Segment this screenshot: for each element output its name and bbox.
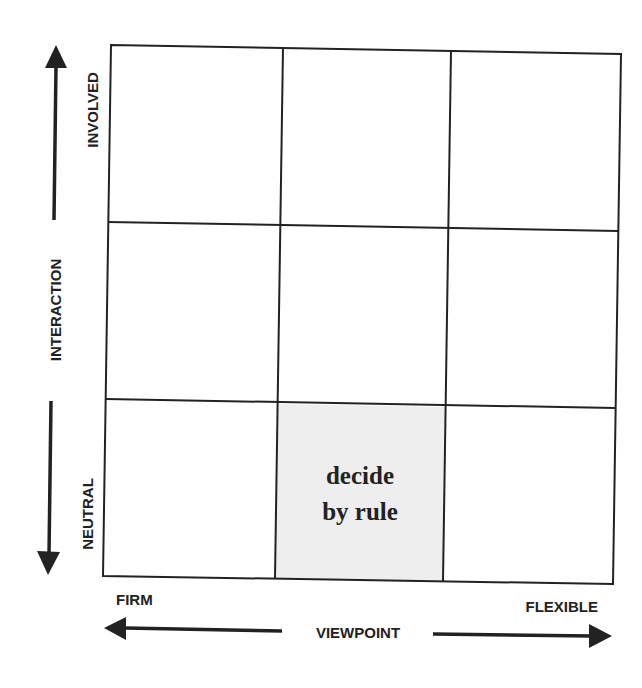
y-axis-title: INTERACTION [47, 259, 64, 362]
left-arrow-icon [104, 617, 282, 640]
grid-horizontal-line-1 [108, 222, 618, 231]
x-axis-title: VIEWPOINT [316, 624, 400, 641]
cell-text-line-2: by rule [322, 498, 398, 525]
down-arrow-icon [37, 401, 60, 575]
cell-text-line-1: decide [326, 462, 394, 489]
y-axis-top-label: INVOLVED [84, 72, 101, 148]
x-axis-right-label: FLEXIBLE [525, 598, 598, 615]
y-axis-bottom-label: NEUTRAL [79, 478, 96, 550]
grid-vertical-line-2 [443, 51, 451, 581]
highlighted-cell-background [275, 404, 446, 581]
x-axis-left-label: FIRM [116, 591, 153, 608]
decision-matrix-diagram: decide by rule INTERACTION INVOLVED NEUT… [0, 0, 642, 688]
up-arrow-icon [45, 45, 67, 220]
right-arrow-icon [433, 624, 612, 648]
